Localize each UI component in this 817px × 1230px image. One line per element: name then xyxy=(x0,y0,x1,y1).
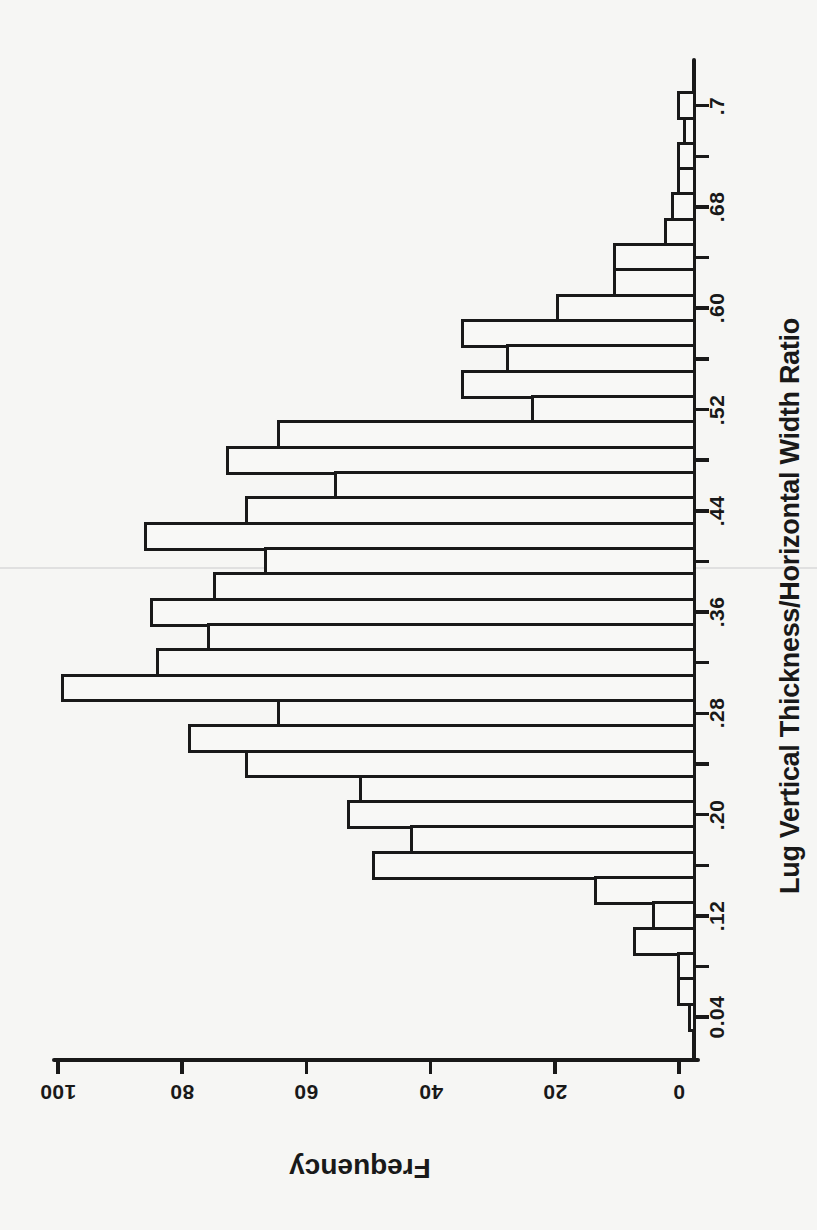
frequency-tick-label: 40 xyxy=(386,1080,476,1104)
frequency-tick xyxy=(677,1062,681,1074)
ratio-tick xyxy=(696,864,709,868)
ratio-tick-label: .68 xyxy=(705,162,729,252)
frequency-tick xyxy=(180,1062,184,1074)
frequency-tick xyxy=(429,1062,433,1074)
histogram-bar xyxy=(688,1003,696,1032)
ratio-tick-label: .20 xyxy=(705,770,729,860)
ratio-tick xyxy=(696,155,709,159)
ratio-tick-label: .28 xyxy=(705,668,729,758)
ratio-tick xyxy=(696,560,709,564)
scanned-page: .7.68.60.52.44.36.28.20.120.04 100806040… xyxy=(0,0,817,1230)
frequency-tick xyxy=(553,1062,557,1074)
frequency-axis-line xyxy=(52,1058,700,1062)
ratio-tick xyxy=(696,357,709,361)
ratio-tick-label: .7 xyxy=(705,61,729,151)
frequency-tick xyxy=(56,1062,60,1074)
ratio-axis-title: Lug Vertical Thickness/Horizontal Width … xyxy=(774,306,806,906)
ratio-tick xyxy=(696,458,709,462)
ratio-tick-label: .60 xyxy=(705,263,729,353)
ratio-tick xyxy=(696,661,709,665)
frequency-tick xyxy=(305,1062,309,1074)
frequency-tick-label: 60 xyxy=(261,1080,351,1104)
frequency-tick-label: 80 xyxy=(137,1080,227,1104)
frequency-axis-title: Frequency xyxy=(210,1153,510,1183)
frequency-tick-label: 100 xyxy=(13,1080,103,1104)
ratio-tick-label: 0.04 xyxy=(705,972,729,1062)
frequency-tick-label: 0 xyxy=(634,1080,724,1104)
ratio-tick-label: .52 xyxy=(705,365,729,455)
frequency-tick-label: 20 xyxy=(510,1080,600,1104)
ratio-tick xyxy=(696,762,709,766)
ratio-tick-label: .44 xyxy=(705,466,729,556)
ratio-tick xyxy=(696,965,709,969)
ratio-tick-label: .12 xyxy=(705,871,729,961)
ratio-tick-label: .36 xyxy=(705,567,729,657)
ratio-tick xyxy=(696,256,709,260)
